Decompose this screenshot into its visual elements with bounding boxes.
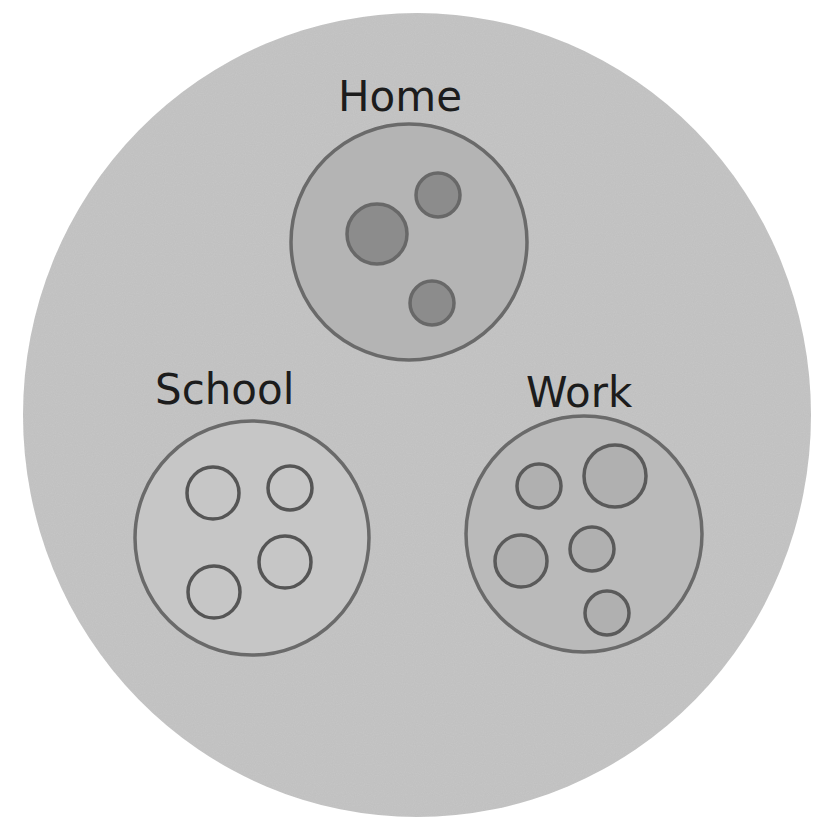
group-label-home: Home — [338, 76, 462, 118]
member-circle-home-2 — [416, 173, 460, 217]
group-label-work: Work — [526, 372, 632, 414]
member-circle-home-1 — [347, 204, 407, 264]
group-circle-home — [291, 124, 527, 360]
member-circle-work-3 — [495, 535, 547, 587]
nested-circle-diagram — [0, 0, 836, 837]
group-work — [466, 416, 702, 652]
group-home — [291, 124, 527, 360]
group-school — [135, 421, 369, 655]
member-circle-work-2 — [584, 445, 646, 507]
group-label-school: School — [155, 369, 294, 411]
member-circle-work-1 — [517, 464, 561, 508]
member-circle-work-4 — [570, 527, 614, 571]
group-circle-school — [135, 421, 369, 655]
member-circle-home-3 — [410, 281, 454, 325]
member-circle-work-5 — [585, 591, 629, 635]
